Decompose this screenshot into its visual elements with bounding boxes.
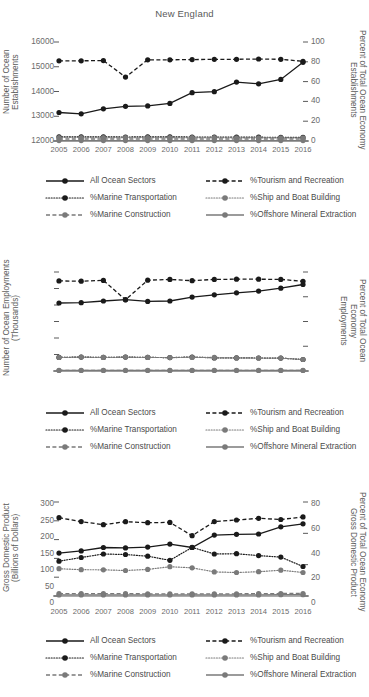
legend-label: %Ship and Boat Building <box>250 425 340 434</box>
data-point <box>190 565 195 570</box>
data-point <box>300 592 305 597</box>
data-point <box>56 592 61 597</box>
legend-row: %Marine Construction%Offshore Mineral Ex… <box>44 438 369 455</box>
legend-label: %Tourism and Recreation <box>250 408 344 417</box>
legend-item-tourism_recreation[interactable]: %Tourism and Recreation <box>204 404 369 421</box>
data-point <box>167 355 172 360</box>
data-point <box>256 355 261 360</box>
y-tick-label-right: 40 <box>311 96 339 105</box>
data-point <box>56 278 61 283</box>
data-point <box>145 355 150 360</box>
legend-item-offshore_mineral[interactable]: %Offshore Mineral Extraction <box>204 206 369 223</box>
legend-item-all_ocean_sectors[interactable]: All Ocean Sectors <box>44 404 204 421</box>
legend-label: %Marine Transportation <box>90 425 177 434</box>
legend-item-marine_transportation[interactable]: %Marine Transportation <box>44 421 204 438</box>
legend-item-ship_boat_building[interactable]: %Ship and Boat Building <box>204 649 369 666</box>
legend-swatch-icon <box>204 441 246 453</box>
data-point <box>256 531 261 536</box>
series-line <box>59 547 303 566</box>
data-point <box>145 545 150 550</box>
data-point <box>145 520 150 525</box>
legend-label: All Ocean Sectors <box>90 176 156 185</box>
legend-item-tourism_recreation[interactable]: %Tourism and Recreation <box>204 632 369 649</box>
data-point <box>190 355 195 360</box>
legend-item-offshore_mineral[interactable]: %Offshore Mineral Extraction <box>204 438 369 455</box>
data-point <box>145 57 150 62</box>
legend-item-ship_boat_building[interactable]: %Ship and Boat Building <box>204 421 369 438</box>
data-point <box>190 533 195 538</box>
legend-label: All Ocean Sectors <box>90 636 156 645</box>
legend-swatch-icon <box>204 192 246 204</box>
data-point <box>123 552 128 557</box>
data-point <box>123 75 128 80</box>
legend-label: %Marine Construction <box>90 670 171 679</box>
data-point <box>278 286 283 291</box>
legend-swatch-icon <box>204 424 246 436</box>
legend-item-offshore_mineral[interactable]: %Offshore Mineral Extraction <box>204 666 369 683</box>
data-point <box>256 553 261 558</box>
legend-label: %Offshore Mineral Extraction <box>250 210 356 219</box>
data-point <box>123 138 128 143</box>
data-point <box>234 368 239 373</box>
data-point <box>190 295 195 300</box>
legend-row: %Marine Transportation%Ship and Boat Bui… <box>44 189 369 206</box>
series-line <box>59 567 303 573</box>
data-point <box>212 89 217 94</box>
data-point <box>123 368 128 373</box>
legend-item-marine_transportation[interactable]: %Marine Transportation <box>44 189 204 206</box>
data-point <box>79 519 84 524</box>
data-point <box>56 110 61 115</box>
y-tick-label-left: 12000 <box>14 136 54 145</box>
legend-item-ship_boat_building[interactable]: %Ship and Boat Building <box>204 189 369 206</box>
data-point <box>190 368 195 373</box>
data-point <box>167 564 172 569</box>
data-point <box>256 569 261 574</box>
data-point <box>234 277 239 282</box>
y-tick-label-left: 13000 <box>14 111 54 120</box>
legend-swatch-icon <box>204 635 246 647</box>
legend-row: All Ocean Sectors%Tourism and Recreation <box>44 632 369 649</box>
data-point <box>145 138 150 143</box>
data-point <box>234 551 239 556</box>
legend-item-all_ocean_sectors[interactable]: All Ocean Sectors <box>44 632 204 649</box>
data-point <box>190 138 195 143</box>
data-point <box>167 592 172 597</box>
legend-item-all_ocean_sectors[interactable]: All Ocean Sectors <box>44 172 204 189</box>
data-point <box>79 592 84 597</box>
data-point <box>212 138 217 143</box>
data-point <box>256 56 261 61</box>
y-tick-label-right: 20 <box>311 116 339 125</box>
legend-swatch-icon <box>44 652 86 664</box>
data-point <box>101 355 106 360</box>
legend-swatch-icon <box>204 652 246 664</box>
data-point <box>234 80 239 85</box>
data-point <box>212 569 217 574</box>
series-line <box>59 59 303 77</box>
y-tick-label-right: 60 <box>311 77 339 86</box>
data-point <box>56 551 61 556</box>
legend-label: %Marine Construction <box>90 210 171 219</box>
legend-item-marine_transportation[interactable]: %Marine Transportation <box>44 649 204 666</box>
x-tick-label-2016: 2016 <box>290 145 316 154</box>
data-point <box>167 542 172 547</box>
legend-label: %Marine Transportation <box>90 193 177 202</box>
legend-employments: All Ocean Sectors%Tourism and Recreation… <box>44 404 369 455</box>
data-point <box>167 368 172 373</box>
legend-item-marine_construction[interactable]: %Marine Construction <box>44 206 204 223</box>
data-point <box>278 555 283 560</box>
data-point <box>256 368 261 373</box>
legend-item-tourism_recreation[interactable]: %Tourism and Recreation <box>204 172 369 189</box>
data-point <box>79 111 84 116</box>
legend-swatch-icon <box>44 407 86 419</box>
data-point <box>190 90 195 95</box>
data-point <box>145 567 150 572</box>
legend-item-marine_construction[interactable]: %Marine Construction <box>44 438 204 455</box>
data-point <box>300 138 305 143</box>
y-tick-label-left: 16000 <box>14 37 54 46</box>
legend-item-marine_construction[interactable]: %Marine Construction <box>44 666 204 683</box>
data-point <box>101 138 106 143</box>
data-point <box>56 559 61 564</box>
data-point <box>300 368 305 373</box>
data-point <box>190 57 195 62</box>
legend-swatch-icon <box>44 635 86 647</box>
